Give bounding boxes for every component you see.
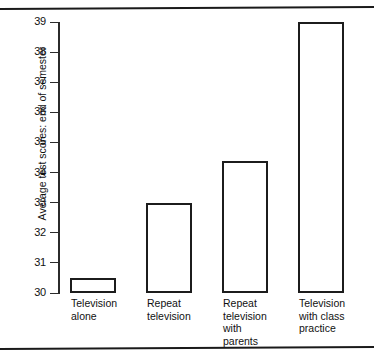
y-axis-tick-label: 39	[22, 16, 46, 27]
category-label-line: parents	[223, 335, 267, 348]
bar	[222, 161, 268, 293]
y-axis-tick-label: 36	[22, 106, 46, 117]
y-axis-tick-label: 35	[22, 136, 46, 147]
bar	[298, 22, 344, 293]
page-rule-top	[0, 6, 374, 10]
category-label-line: Television	[71, 297, 117, 310]
category-label-line: Repeat	[147, 297, 191, 310]
category-label: Televisionwith classpractice	[299, 297, 345, 335]
bar-chart-figure: Average test scores: end of semester 393…	[0, 0, 374, 361]
category-label-line: alone	[71, 310, 117, 323]
category-label-line: with	[223, 322, 267, 335]
category-label-line: practice	[299, 322, 345, 335]
bar	[146, 203, 192, 293]
plot-area	[58, 22, 368, 292]
page-rule-bottom	[0, 346, 374, 350]
y-axis-tick-label: 37	[22, 76, 46, 87]
y-axis-tick-label: 34	[22, 167, 46, 178]
category-label-line: Repeat	[223, 297, 267, 310]
y-axis-tick-label: 32	[22, 227, 46, 238]
category-label-line: with class	[299, 310, 345, 323]
y-axis-tick-label: 30	[22, 287, 46, 298]
category-label-line: Television	[299, 297, 345, 310]
y-axis-tick	[50, 293, 60, 294]
category-label: Repeattelevision	[147, 297, 191, 322]
category-label: Televisionalone	[71, 297, 117, 322]
y-axis-tick-label: 38	[22, 46, 46, 57]
y-axis-tick-label: 33	[22, 197, 46, 208]
y-axis-tick-label: 31	[22, 257, 46, 268]
bar	[70, 278, 116, 293]
category-label-line: television	[223, 310, 267, 323]
category-label: Repeattelevisionwithparents	[223, 297, 267, 347]
category-label-line: television	[147, 310, 191, 323]
